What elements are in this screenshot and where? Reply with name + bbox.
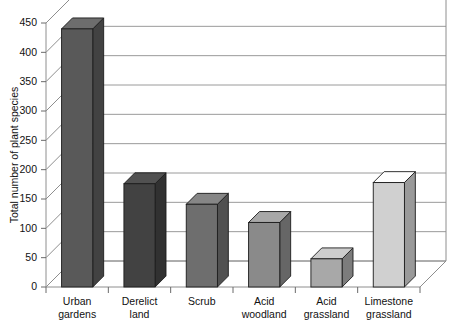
- bars-group: [62, 18, 416, 287]
- bar-chart-canvas: 050100150200250300350400450 Urbangardens…: [0, 0, 465, 333]
- bar-column: [124, 173, 166, 287]
- category-label-line: grassland: [304, 308, 350, 320]
- y-tick-label: 200: [19, 163, 37, 175]
- y-tick-label: 50: [25, 251, 37, 263]
- category-label: Acidwoodland: [241, 295, 287, 320]
- category-label-line: Scrub: [188, 295, 216, 307]
- category-label: Urbangardens: [58, 295, 96, 320]
- bar-column: [186, 193, 228, 287]
- bar-column: [249, 212, 291, 287]
- bar-column: [373, 172, 415, 287]
- category-label: Derelictland: [122, 295, 158, 320]
- category-label: Acidgrassland: [304, 295, 350, 320]
- category-label-line: Acid: [316, 295, 337, 307]
- bar-column: [62, 18, 104, 287]
- category-labels-group: UrbangardensDerelictlandScrubAcidwoodlan…: [58, 295, 413, 320]
- y-axis-labels-group: 050100150200250300350400450: [19, 16, 37, 292]
- category-label-line: Acid: [254, 295, 275, 307]
- y-tick-label: 300: [19, 104, 37, 116]
- y-tick-label: 450: [19, 16, 37, 28]
- y-axis-ticks-group: [41, 23, 46, 287]
- category-label-line: gardens: [58, 308, 96, 320]
- y-tick-label: 250: [19, 134, 37, 146]
- category-label-line: Derelict: [122, 295, 158, 307]
- category-label: Scrub: [188, 295, 216, 307]
- bar-column: [311, 248, 353, 287]
- category-label-line: woodland: [241, 308, 287, 320]
- category-label-line: Urban: [63, 295, 92, 307]
- chart-figure: 050100150200250300350400450 Urbangardens…: [0, 0, 465, 333]
- y-tick-label: 100: [19, 222, 37, 234]
- y-tick-label: 400: [19, 46, 37, 58]
- y-tick-label: 0: [31, 280, 37, 292]
- y-tick-label: 350: [19, 75, 37, 87]
- y-tick-label: 150: [19, 192, 37, 204]
- category-label-line: land: [130, 308, 150, 320]
- category-label: Limestonegrassland: [365, 295, 414, 320]
- y-axis-title: Total number of plant species: [8, 87, 20, 224]
- category-label-line: grassland: [366, 308, 412, 320]
- category-label-line: Limestone: [365, 295, 414, 307]
- x-axis-ticks-group: [46, 287, 420, 293]
